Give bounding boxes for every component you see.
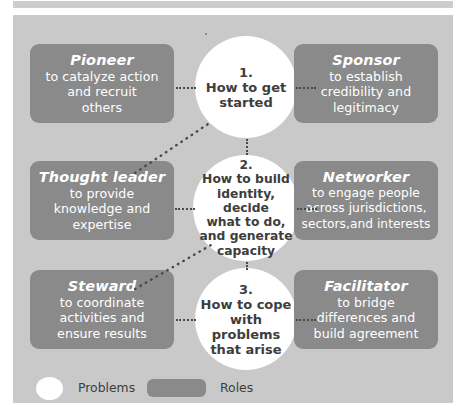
problem-text-2-line1: How to build bbox=[202, 172, 290, 186]
role-desc-thought-leader-line1: to provide bbox=[70, 186, 134, 201]
role-desc-thought-leader-line2: knowledge and bbox=[54, 201, 151, 216]
problem-text-3-line1: How to cope bbox=[201, 297, 292, 312]
problem-text-2-line4: and generate bbox=[200, 229, 293, 243]
role-title-sponsor: Sponsor bbox=[332, 52, 400, 69]
role-desc-sponsor-line3: legitimacy bbox=[333, 100, 399, 115]
role-desc-sponsor-line1: to establish bbox=[329, 69, 403, 84]
connector-pioneer-to-problem1 bbox=[176, 87, 196, 89]
problem-text-2-line3: what to do, bbox=[206, 215, 285, 229]
connector-problem2-to-networker bbox=[297, 208, 317, 210]
role-box-sponsor: Sponsor to establish credibility and leg… bbox=[294, 44, 438, 123]
role-desc-steward-line3: ensure results bbox=[57, 326, 147, 341]
figure-panel: Pioneer to catalyze action and recruit o… bbox=[13, 15, 453, 403]
legend-label-roles: Roles bbox=[220, 380, 253, 395]
problem-text-3-line2: with problems bbox=[195, 312, 297, 342]
problem-number-1: 1. bbox=[239, 65, 253, 80]
connector-diagonal-lower bbox=[133, 243, 213, 291]
legend-swatch-roles bbox=[147, 379, 206, 397]
connector-thought-leader-to-problem2 bbox=[175, 208, 195, 210]
problem-number-2: 2. bbox=[239, 158, 252, 172]
role-desc-steward-line2: activities and bbox=[59, 310, 144, 325]
top-divider-rule bbox=[13, 1, 453, 8]
legend-label-problems: Problems bbox=[78, 380, 135, 395]
connector-problem3-to-facilitator bbox=[296, 319, 316, 321]
role-desc-networker-line1: to engage people bbox=[312, 186, 420, 201]
connector-steward-to-problem3 bbox=[176, 319, 196, 321]
role-desc-facilitator-line1: to bridge bbox=[337, 295, 395, 310]
problem-text-1-line1: How to get bbox=[206, 80, 286, 95]
role-title-facilitator: Facilitator bbox=[324, 278, 407, 295]
connector-diagonal-upper bbox=[133, 120, 213, 175]
problem-text-3-line3: that arise bbox=[210, 342, 281, 357]
connector-problem1-to-sponsor bbox=[296, 87, 316, 89]
legend-swatch-problems bbox=[36, 377, 63, 400]
role-desc-thought-leader-line3: expertise bbox=[72, 217, 131, 232]
role-title-networker: Networker bbox=[323, 169, 409, 186]
problem-text-2-line5: capacity bbox=[217, 244, 275, 258]
role-desc-networker-line2: across jurisdictions, bbox=[305, 201, 426, 216]
connector-problem1-to-problem2 bbox=[246, 139, 248, 155]
role-desc-facilitator-line3: build agreement bbox=[314, 326, 419, 341]
stray-dot-artifact bbox=[205, 33, 207, 35]
problem-number-3: 3. bbox=[239, 282, 253, 297]
problem-text-1-line2: started bbox=[219, 95, 272, 110]
legend: Problems Roles bbox=[30, 375, 330, 405]
role-desc-steward-line1: to coordinate bbox=[60, 295, 144, 310]
role-desc-sponsor-line2: credibility and bbox=[321, 84, 411, 99]
role-title-pioneer: Pioneer bbox=[70, 52, 133, 69]
role-desc-pioneer-line2: and recruit bbox=[67, 84, 136, 99]
problem-text-2-line2: identity, decide bbox=[193, 187, 299, 216]
role-desc-pioneer-line1: to catalyze action bbox=[46, 69, 159, 84]
role-box-pioneer: Pioneer to catalyze action and recruit o… bbox=[30, 44, 174, 123]
role-desc-facilitator-line2: differences and bbox=[317, 310, 415, 325]
connector-problem2-to-problem3 bbox=[246, 262, 248, 270]
role-desc-pioneer-line3: others bbox=[82, 100, 122, 115]
role-box-facilitator: Facilitator to bridge differences and bu… bbox=[294, 270, 438, 349]
role-title-steward: Steward bbox=[68, 278, 137, 295]
role-box-networker: Networker to engage people across jurisd… bbox=[294, 161, 438, 240]
role-desc-networker-line3: sectors,and interests bbox=[302, 217, 431, 232]
